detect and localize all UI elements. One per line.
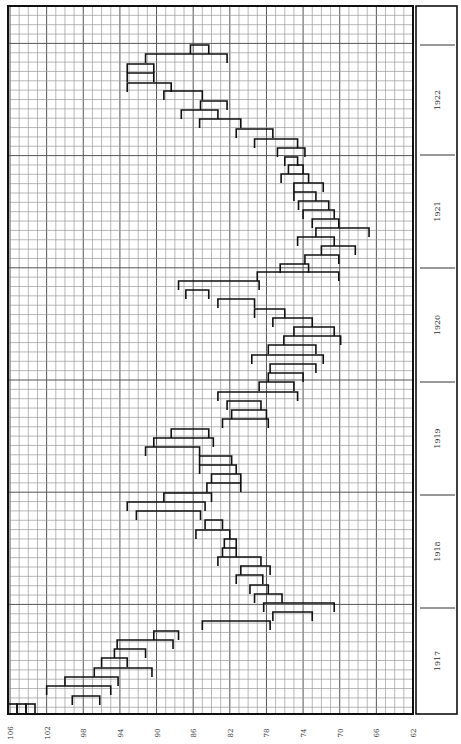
range-bar (255, 139, 298, 148)
x-tick-label: 82 (227, 729, 235, 738)
range-bar (294, 192, 316, 201)
range-bar (207, 483, 241, 492)
range-bar (218, 557, 261, 566)
range-bar (47, 686, 111, 695)
range-bar (102, 658, 128, 667)
range-bar (321, 246, 355, 255)
range-bar (72, 696, 99, 705)
x-tick-label: 94 (117, 728, 125, 737)
range-bar (288, 165, 303, 174)
range-bar (171, 429, 209, 438)
range-bar (305, 255, 339, 264)
x-tick-label: 62 (410, 729, 418, 738)
range-bar (250, 585, 268, 594)
year-label: 1919 (433, 428, 442, 448)
x-tick-label: 90 (154, 729, 162, 738)
x-axis-tick-labels: 10610298949086827874706662 (7, 726, 418, 740)
range-bar (146, 54, 228, 63)
x-tick-label: 98 (80, 729, 88, 738)
year-legend-box: 192219211920191919181917 (416, 6, 457, 714)
year-label: 1917 (433, 651, 442, 671)
x-tick-label: 102 (44, 726, 52, 739)
range-bar (65, 677, 118, 686)
range-bar (294, 327, 334, 336)
range-bar (270, 364, 316, 373)
range-bar (255, 309, 285, 318)
range-bar (186, 290, 209, 299)
price-range-chart: 10610298949086827874706662 1922192119201… (0, 0, 461, 744)
range-bar (227, 401, 261, 410)
range-bar (205, 520, 222, 529)
range-bar (17, 704, 26, 714)
range-bar (273, 612, 312, 621)
range-bar (94, 668, 152, 677)
year-label: 1920 (433, 315, 442, 335)
x-tick-label: 78 (263, 729, 271, 738)
x-tick-label: 86 (190, 728, 198, 737)
year-label: 1921 (433, 201, 442, 221)
chart-grid (8, 6, 413, 714)
range-bar (273, 318, 312, 327)
range-bar (294, 183, 323, 192)
range-bar (257, 272, 339, 281)
range-bar (281, 174, 308, 183)
x-tick-label: 74 (300, 728, 308, 737)
range-bar (268, 373, 303, 382)
range-bar (218, 299, 255, 308)
range-bar (200, 465, 237, 474)
range-bar (8, 704, 17, 714)
range-bar (26, 704, 35, 714)
range-bar (181, 110, 218, 119)
x-tick-label: 106 (7, 726, 15, 740)
x-tick-label: 66 (373, 728, 381, 737)
year-label: 1918 (433, 541, 442, 561)
range-bar (312, 219, 339, 228)
plot-border (8, 6, 413, 714)
range-bar (164, 91, 202, 100)
range-bar (136, 511, 200, 520)
range-bar (117, 640, 173, 649)
year-label: 1922 (433, 90, 442, 110)
range-bar (164, 493, 212, 502)
range-bar (179, 281, 260, 290)
range-bar (196, 530, 230, 539)
range-bar (114, 649, 145, 658)
range-bar (200, 119, 241, 128)
range-bar (202, 621, 270, 630)
range-bar (200, 456, 232, 465)
range-bar (212, 474, 241, 483)
range-bar (316, 228, 369, 237)
x-tick-label: 70 (337, 729, 345, 738)
